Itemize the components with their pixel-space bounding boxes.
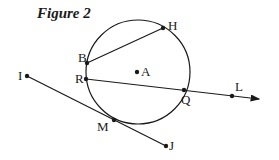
- label-b: B: [78, 50, 87, 65]
- point-j: [164, 144, 168, 148]
- label-h: H: [168, 18, 177, 33]
- label-i: I: [18, 68, 22, 83]
- label-r: R: [75, 71, 84, 86]
- label-j: J: [169, 138, 174, 153]
- point-m: [112, 118, 116, 122]
- point-i: [25, 74, 29, 78]
- point-l: [230, 94, 234, 98]
- label-q: Q: [181, 92, 191, 107]
- label-a: A: [141, 64, 151, 79]
- label-m: M: [97, 119, 109, 134]
- point-r: [84, 77, 88, 81]
- point-h: [161, 26, 165, 30]
- geometry-diagram: H B R A Q L I M J: [0, 0, 279, 160]
- label-l: L: [235, 79, 243, 94]
- chord-bh: [87, 28, 163, 63]
- segment-ij: [27, 76, 166, 146]
- point-a: [135, 70, 139, 74]
- points: [25, 26, 234, 148]
